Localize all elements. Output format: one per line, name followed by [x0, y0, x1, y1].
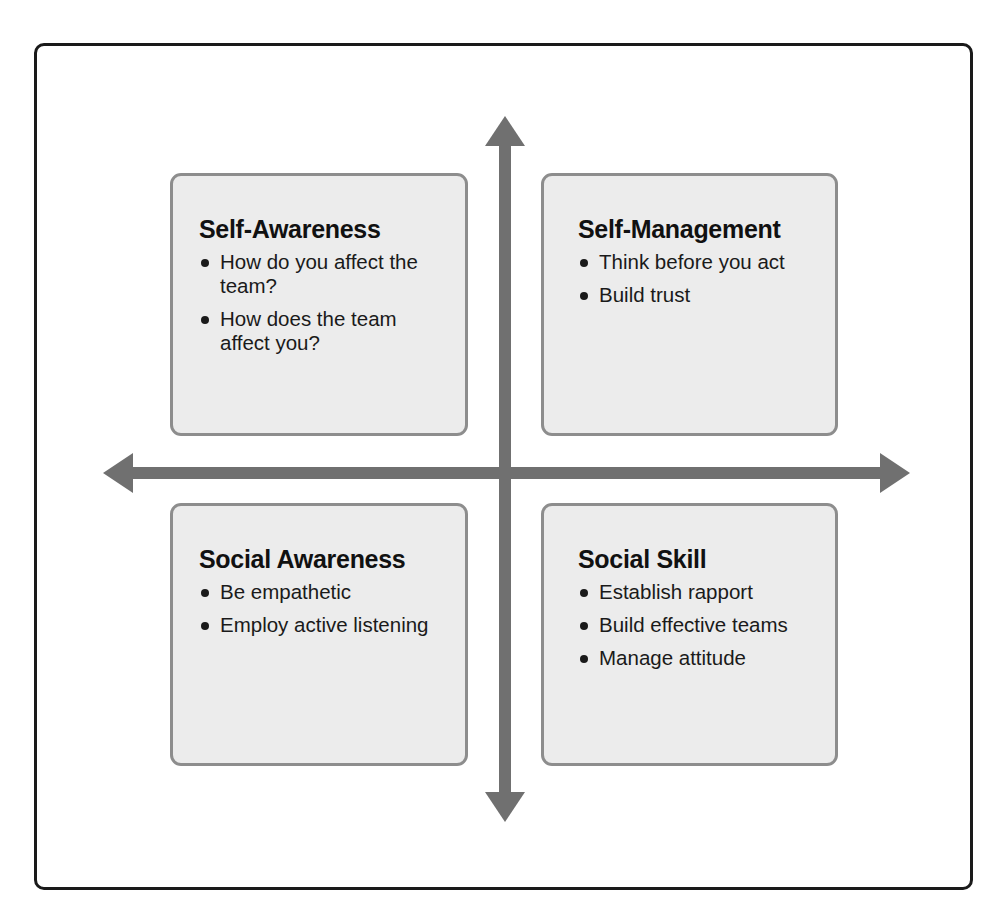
list-item: How do you affect the team? [199, 250, 445, 298]
bullet-list: How do you affect the team? How does the… [199, 250, 445, 355]
list-item: Establish rapport [578, 580, 815, 604]
bullet-icon [580, 655, 588, 663]
bullet-icon [201, 589, 209, 597]
list-item: How does the team affect you? [199, 307, 445, 355]
quadrant-title: Social Awareness [199, 544, 445, 574]
quadrant-self-awareness: Self-Awareness How do you affect the tea… [170, 173, 468, 436]
list-item: Build trust [578, 283, 815, 307]
quadrant-title: Self-Management [578, 214, 815, 244]
bullet-list: Think before you act Build trust [578, 250, 815, 307]
bullet-list: Be empathetic Employ active listening [199, 580, 445, 637]
list-item: Be empathetic [199, 580, 445, 604]
bullet-icon [580, 622, 588, 630]
quadrant-social-skill: Social Skill Establish rapport Build eff… [541, 503, 838, 766]
list-item: Employ active listening [199, 613, 445, 637]
bullet-icon [580, 292, 588, 300]
list-item: Think before you act [578, 250, 815, 274]
bullet-list: Establish rapport Build effective teams … [578, 580, 815, 670]
quadrant-title: Social Skill [578, 544, 815, 574]
quadrant-self-management: Self-Management Think before you act Bui… [541, 173, 838, 436]
quadrant-social-awareness: Social Awareness Be empathetic Employ ac… [170, 503, 468, 766]
bullet-icon [580, 589, 588, 597]
list-item: Manage attitude [578, 646, 815, 670]
axes [0, 0, 1003, 923]
list-item: Build effective teams [578, 613, 815, 637]
quadrant-title: Self-Awareness [199, 214, 445, 244]
bullet-icon [201, 259, 209, 267]
bullet-icon [201, 622, 209, 630]
bullet-icon [580, 259, 588, 267]
bullet-icon [201, 316, 209, 324]
